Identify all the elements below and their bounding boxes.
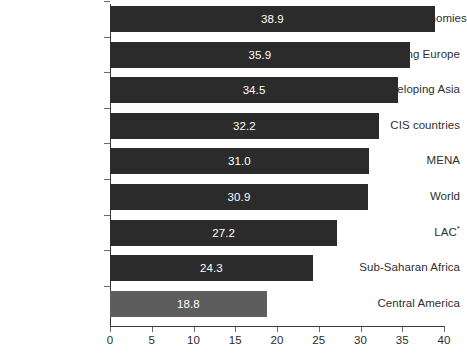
bar-value-label: 30.9 [110,184,368,210]
value-tick [361,327,362,332]
bar-value-label: 34.5 [110,77,398,103]
value-tick [152,327,153,332]
value-tick [444,327,445,332]
category-tick [104,72,110,73]
value-tick-label: 5 [132,334,172,346]
bar-value-label: 27.2 [110,220,337,246]
value-tick [110,327,111,332]
category-tick [104,215,110,216]
bar-value-label: 35.9 [110,42,410,68]
value-tick-label: 10 [174,334,214,346]
bar-value-label: 31.0 [110,148,369,174]
value-tick [319,327,320,332]
category-label: MENA [356,154,460,166]
category-label: World [356,190,460,202]
category-tick [104,108,110,109]
value-tick [194,327,195,332]
bar-value-label: 32.2 [110,113,379,139]
value-tick-label: 40 [424,334,464,346]
value-tick-label: 35 [382,334,422,346]
value-tick-label: 0 [90,334,130,346]
category-tick [104,179,110,180]
value-tick-label: 15 [215,334,255,346]
category-tick [104,143,110,144]
category-tick [104,37,110,38]
bar-value-label: 24.3 [110,255,313,281]
category-tick [104,1,110,2]
value-tick-label: 25 [299,334,339,346]
value-tick-label: 30 [341,334,381,346]
category-tick [104,250,110,251]
value-tick [402,327,403,332]
value-tick [235,327,236,332]
category-label: LAC* [356,226,460,238]
category-tick [104,286,110,287]
category-label: Central America [356,297,460,309]
footnote-marker: * [457,224,460,233]
value-tick-label: 20 [257,334,297,346]
value-tick [277,327,278,332]
category-label: Sub-Saharan Africa [356,261,460,273]
bar-value-label: 18.8 [110,291,267,317]
bar-value-label: 38.9 [110,6,435,32]
